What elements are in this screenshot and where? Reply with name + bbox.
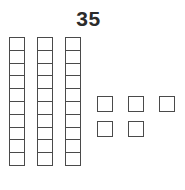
unit-cube <box>128 121 144 137</box>
unit-cubes-row <box>97 96 175 112</box>
tens-rod <box>37 37 53 166</box>
tens-rod-cell <box>65 152 81 166</box>
unit-cube <box>97 121 113 137</box>
tens-rods-group <box>9 37 81 166</box>
unit-cubes-row <box>97 121 175 137</box>
base-ten-blocks-figure: 35 <box>0 0 185 190</box>
unit-cubes-group <box>97 96 175 137</box>
unit-cube <box>128 96 144 112</box>
tens-rod-cell <box>9 152 25 166</box>
tens-rod <box>65 37 81 166</box>
unit-cube <box>97 96 113 112</box>
tens-rod <box>9 37 25 166</box>
tens-rod-cell <box>37 152 53 166</box>
page-title: 35 <box>0 8 177 30</box>
unit-cube <box>159 96 175 112</box>
